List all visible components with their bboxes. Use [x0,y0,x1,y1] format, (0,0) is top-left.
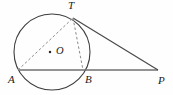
center-label-O: O [56,46,64,57]
segment-tangent-TP [73,18,158,70]
vertex-label-T: T [68,0,74,11]
segment-chord-AT [18,18,73,70]
geometry-figure: O T A B P [0,0,173,95]
vertex-label-P: P [158,75,165,86]
segment-chord-TB [73,18,83,70]
vertex-label-B: B [85,74,92,85]
circle-O [14,14,90,90]
vertex-label-A: A [8,74,15,85]
center-dot-icon [49,51,52,54]
